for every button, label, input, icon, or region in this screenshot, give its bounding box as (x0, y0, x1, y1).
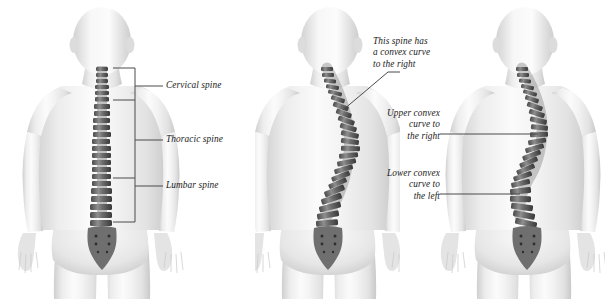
label-lumbar-spine: Lumbar spine (166, 180, 219, 191)
annotation-upper-convex-right: Upper convex curve to the right (372, 108, 440, 142)
label-cervical-spine: Cervical spine (166, 80, 221, 91)
panel-normal-spine: Cervical spine Thoracic spine Lumbar spi… (0, 0, 202, 299)
normal-spine-figure (0, 0, 202, 299)
panel-c-curve-spine: This spine has a convex curve to the rig… (255, 0, 400, 299)
label-thoracic-spine: Thoracic spine (166, 134, 223, 145)
annotation-upper-line1: Upper convex (372, 108, 440, 119)
annotation-lower-line3: the left (372, 191, 440, 202)
annotation-upper-line2: curve to (372, 119, 440, 130)
panel-s-curve-spine: Upper convex curve to the right Lower co… (440, 0, 605, 299)
annotation-upper-line3: the right (372, 131, 440, 142)
annotation-lower-line2: curve to (372, 179, 440, 190)
s-curve-spine-figure (440, 0, 605, 299)
spine-illustration-page: Cervical spine Thoracic spine Lumbar spi… (0, 0, 605, 299)
annotation-lower-convex-left: Lower convex curve to the left (372, 168, 440, 202)
annotation-lower-line1: Lower convex (372, 168, 440, 179)
